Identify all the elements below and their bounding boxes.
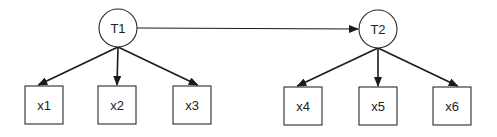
- observed-node-label: x6: [445, 99, 459, 114]
- latent-node-label: T1: [110, 21, 125, 36]
- observed-node-x3: x3: [173, 86, 211, 124]
- edge-t2-to-x6: [378, 48, 458, 86]
- edge-t1-to-t2: [137, 28, 358, 29]
- edge-t1-to-x3: [118, 47, 198, 85]
- observed-node-label: x2: [110, 98, 124, 113]
- observed-node-x4: x4: [284, 87, 322, 125]
- latent-node-label: T2: [370, 22, 385, 37]
- latent-node-t2: T2: [359, 10, 397, 48]
- observed-node-label: x1: [37, 98, 51, 113]
- observed-node-x2: x2: [98, 86, 136, 124]
- observed-node-x1: x1: [25, 86, 63, 124]
- observed-node-x5: x5: [359, 87, 397, 125]
- path-diagram: T1T2x1x2x3x4x5x6: [0, 0, 497, 137]
- edge-t1-to-x1: [38, 47, 118, 85]
- observed-node-label: x4: [296, 99, 310, 114]
- observed-node-label: x5: [371, 99, 385, 114]
- edge-t2-to-x4: [297, 48, 378, 86]
- nodes: T1T2x1x2x3x4x5x6: [25, 9, 471, 125]
- observed-node-x6: x6: [433, 87, 471, 125]
- edge-t1-to-x2: [117, 47, 118, 85]
- latent-node-t1: T1: [99, 9, 137, 47]
- observed-node-label: x3: [185, 98, 199, 113]
